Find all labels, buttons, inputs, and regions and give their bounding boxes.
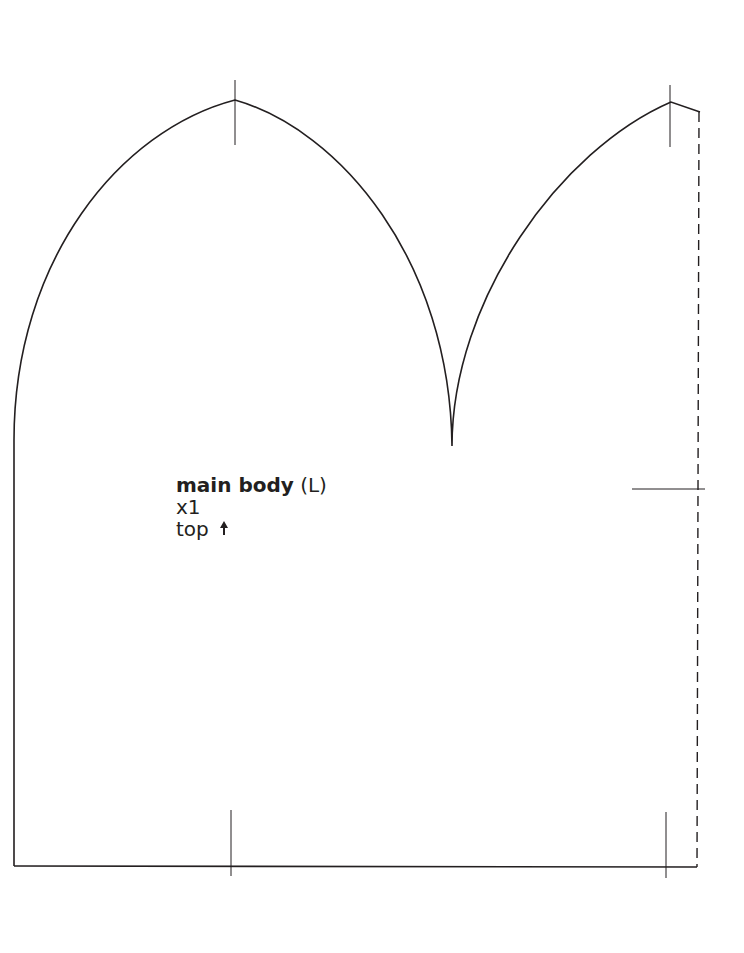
piece-quantity: x1: [176, 496, 327, 518]
pattern-outline: [14, 100, 700, 866]
bottom-edge: [14, 866, 697, 867]
orientation-text: top: [176, 517, 209, 541]
piece-orientation: top: [176, 518, 327, 540]
piece-label: main body (L) x1 top: [176, 474, 327, 540]
piece-side: (L): [300, 473, 327, 497]
piece-title: main body (L): [176, 474, 327, 496]
arrow-up-icon: [219, 518, 229, 540]
pattern-piece-drawing: [0, 0, 744, 953]
piece-name: main body: [176, 473, 294, 497]
